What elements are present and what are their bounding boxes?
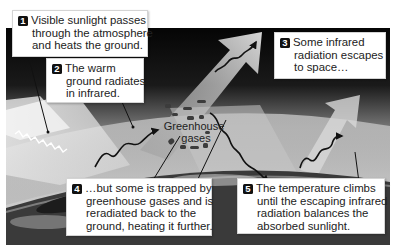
step-3-text-line-3: to space… — [280, 61, 381, 74]
step-number-badge: 1 — [18, 16, 28, 26]
step-5-text-line-1: The temperature climbs — [256, 182, 376, 194]
step-1-callout: 1Visible sunlight passes through the atm… — [12, 10, 148, 57]
greenhouse-gases-label: Greenhouse gases — [154, 121, 234, 144]
step-4-text-line-2: greenhouse gases and is — [72, 195, 207, 208]
step-5-callout: 5The temperature climbs until the escapi… — [237, 178, 385, 234]
step-1-text-line-1: Visible sunlight passes — [31, 14, 146, 26]
step-3-callout: 3Some infrared radiation escapes to spac… — [274, 32, 386, 79]
step-number-badge: 4 — [72, 184, 82, 194]
step-3-text-line-2: radiation escapes — [280, 49, 381, 62]
step-1-text-line-3: and heats the ground. — [18, 39, 143, 52]
step-1-text-line-2: through the atmosphere — [18, 27, 143, 40]
step-2-callout: 2The warm ground radiates in infrared. — [46, 58, 144, 103]
step-4-text-line-3: reradiated back to the — [72, 207, 207, 220]
step-4-text-line-4: ground, heating it further. — [72, 220, 207, 233]
step-4-callout: 4…but some is trapped by greenhouse gase… — [66, 178, 212, 236]
step-5-text-line-3: radiation balances the — [243, 207, 380, 220]
step-2-text-line-2: ground radiates — [52, 75, 139, 88]
greenhouse-label-line2: gases — [154, 133, 234, 145]
step-5-text-line-4: absorbed sunlight. — [243, 220, 380, 233]
step-number-badge: 3 — [280, 38, 290, 48]
step-2-text-line-3: in infrared. — [52, 87, 139, 100]
step-4-text-line-1: …but some is trapped by — [85, 182, 212, 194]
step-5-text-line-2: until the escaping infrared — [243, 195, 380, 208]
step-3-text-line-1: Some infrared — [293, 36, 365, 48]
step-2-text-line-1: The warm — [65, 62, 116, 74]
step-number-badge: 5 — [243, 184, 253, 194]
step-number-badge: 2 — [52, 64, 62, 74]
greenhouse-label-line1: Greenhouse — [154, 121, 234, 133]
